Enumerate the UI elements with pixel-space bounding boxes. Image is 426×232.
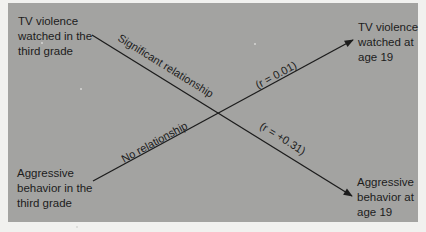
label-significant-relationship: Significant relationship [116, 32, 216, 100]
label-no-relationship: No relationship [119, 119, 189, 165]
relationship-lines: Significant relationship (r = +0.31) (r … [0, 0, 426, 232]
label-r-plus-031: (r = +0.31) [258, 120, 308, 157]
edge-tv3-to-aggr19 [92, 35, 352, 196]
label-r-001: (r = 0.01) [253, 59, 298, 91]
